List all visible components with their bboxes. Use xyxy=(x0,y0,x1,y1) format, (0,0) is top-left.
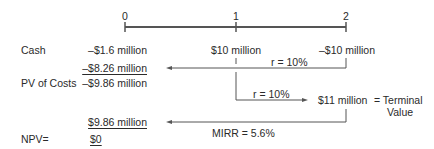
mirr-arrow-head xyxy=(166,120,172,124)
cash-flow-year-0: –$1.6 million xyxy=(70,44,147,56)
period-label-0: 0 xyxy=(119,10,131,22)
terminal-value-amount: $11 million xyxy=(318,94,367,106)
cash-flow-year-2: –$10 million xyxy=(319,44,375,56)
npv-label: NPV= xyxy=(21,133,49,145)
pv-costs-value: –$9.86 million xyxy=(70,77,147,89)
cash-label: Cash xyxy=(21,44,46,56)
pv-costs-label: PV of Costs xyxy=(21,77,76,89)
discounted-cost-value: –$8.26 million xyxy=(70,62,147,74)
terminal-value-label-line2: Value xyxy=(387,106,413,118)
compound-rate-label: r = 10% xyxy=(253,88,289,100)
compound-arrow-head xyxy=(302,98,308,102)
terminal-value-label: = Terminal xyxy=(374,94,423,106)
period-label-2: 2 xyxy=(340,10,352,22)
mirr-label: MIRR = 5.6% xyxy=(212,127,275,139)
discount-rate-label: r = 10% xyxy=(271,56,307,68)
cash-flow-year-1: $10 million xyxy=(200,44,272,56)
period-label-1: 1 xyxy=(230,10,242,22)
npv-value: $0 xyxy=(90,133,102,145)
discount-arrow-head xyxy=(166,66,172,70)
pv-terminal-value: $9.86 million xyxy=(70,116,147,128)
